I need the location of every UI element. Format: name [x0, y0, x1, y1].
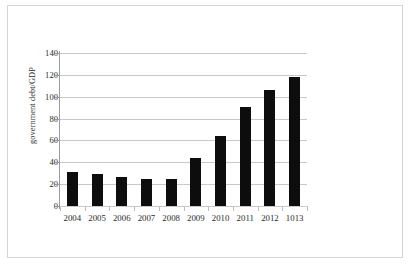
x-axis-tick-mark — [184, 207, 185, 211]
bar — [116, 177, 127, 207]
x-axis-tick-mark — [85, 207, 86, 211]
bar — [92, 174, 103, 206]
x-axis-tick-mark — [307, 207, 308, 211]
y-axis-tick-mark — [55, 75, 59, 76]
bar — [67, 172, 78, 206]
y-axis-tick-mark — [55, 53, 59, 54]
chart-figure-frame: government debt/GDP 020406080100120140 2… — [7, 5, 403, 258]
x-axis-tick-mark — [109, 207, 110, 211]
x-axis-tick-mark — [258, 207, 259, 211]
x-axis-tick-mark — [159, 207, 160, 211]
bar — [215, 136, 226, 206]
x-axis-tick-mark — [233, 207, 234, 211]
x-axis-tick-mark — [208, 207, 209, 211]
bars-layer — [60, 53, 307, 206]
bar — [141, 179, 152, 206]
bar — [240, 107, 251, 206]
bar — [190, 158, 201, 206]
bar — [264, 90, 275, 206]
y-axis-tick-mark — [55, 162, 59, 163]
y-axis-tick-mark — [55, 206, 59, 207]
bar — [166, 179, 177, 206]
y-axis-tick-mark — [55, 140, 59, 141]
x-axis-tick-mark — [134, 207, 135, 211]
y-axis-tick-mark — [55, 184, 59, 185]
y-axis-tick-mark — [55, 119, 59, 120]
x-axis-tick-label: 1013 — [275, 213, 315, 223]
x-axis-tick-mark — [60, 207, 61, 211]
x-axis-tick-mark — [282, 207, 283, 211]
bar — [289, 77, 300, 206]
y-axis-tick-mark — [55, 97, 59, 98]
bar-chart: government debt/GDP 020406080100120140 2… — [8, 6, 404, 259]
